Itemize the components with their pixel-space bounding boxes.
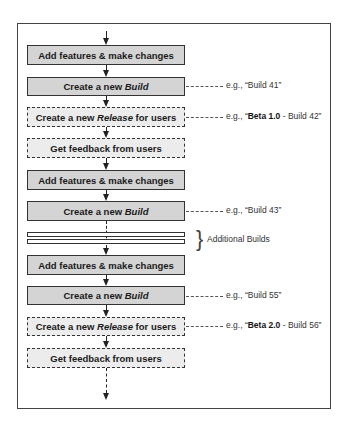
arrow-down-icon bbox=[103, 70, 109, 77]
arrow-down-icon bbox=[103, 279, 109, 286]
step-create-build: Create a new Build bbox=[27, 286, 185, 305]
annotation-leader bbox=[186, 86, 223, 87]
step-label: Create a new bbox=[63, 290, 122, 301]
annotation-leader bbox=[186, 326, 223, 327]
arrow-down-icon bbox=[103, 163, 109, 170]
annotation-beta-2: e.g., “Beta 2.0 - Build 56” bbox=[226, 320, 321, 330]
step-label: Get feedback from users bbox=[50, 353, 161, 364]
additional-build-bar bbox=[27, 239, 185, 244]
annotation-leader bbox=[186, 117, 223, 118]
arrow-down-icon bbox=[103, 248, 109, 255]
arrow-down-icon bbox=[103, 131, 109, 138]
annotation-prefix: e.g., “ bbox=[226, 111, 248, 121]
step-label-suffix: for users bbox=[133, 112, 176, 123]
annotation-build-55: e.g., “Build 55” bbox=[226, 290, 281, 300]
annotation-text: Build 43” bbox=[248, 205, 282, 215]
annotation-text: - Build 42” bbox=[280, 111, 321, 121]
step-label: Get feedback from users bbox=[50, 143, 161, 154]
annotation-text: - Build 56” bbox=[280, 320, 321, 330]
annotation-leader bbox=[186, 211, 223, 212]
annotation-prefix: e.g., “ bbox=[226, 320, 248, 330]
annotation-build-43: e.g., “Build 43” bbox=[226, 205, 281, 215]
step-get-feedback: Get feedback from users bbox=[27, 138, 185, 158]
additional-builds-label: Additional Builds bbox=[207, 234, 270, 244]
additional-build-bar bbox=[27, 232, 185, 237]
step-get-feedback: Get feedback from users bbox=[27, 348, 185, 368]
step-label: Create a new bbox=[36, 321, 95, 332]
step-create-build: Create a new Build bbox=[27, 77, 185, 96]
annotation-prefix: e.g., “ bbox=[226, 80, 248, 90]
step-create-release: Create a new Release for users bbox=[27, 107, 185, 127]
step-label-emphasis: Release bbox=[97, 112, 133, 123]
annotation-bold: Beta 1.0 bbox=[248, 111, 281, 121]
step-label: Add features & make changes bbox=[38, 260, 174, 271]
step-label: Create a new bbox=[36, 112, 95, 123]
step-create-release: Create a new Release for users bbox=[27, 317, 185, 336]
step-add-features: Add features & make changes bbox=[27, 255, 185, 275]
step-label: Add features & make changes bbox=[38, 175, 174, 186]
annotation-prefix: e.g., “ bbox=[226, 290, 248, 300]
annotation-text: Build 41” bbox=[248, 80, 282, 90]
step-label-emphasis: Build bbox=[125, 206, 149, 217]
step-add-features: Add features & make changes bbox=[27, 170, 185, 190]
step-create-build: Create a new Build bbox=[27, 201, 185, 221]
step-label: Create a new bbox=[63, 206, 122, 217]
arrow-down-icon bbox=[103, 38, 109, 45]
step-label-emphasis: Release bbox=[97, 321, 133, 332]
annotation-build-41: e.g., “Build 41” bbox=[226, 80, 281, 90]
arrow-down-icon bbox=[103, 194, 109, 201]
annotation-bold: Beta 2.0 bbox=[248, 320, 281, 330]
connector-line bbox=[106, 31, 107, 38]
arrow-down-icon bbox=[103, 393, 109, 400]
arrow-down-icon bbox=[103, 341, 109, 348]
step-add-features: Add features & make changes bbox=[27, 45, 185, 65]
step-label-emphasis: Build bbox=[125, 81, 149, 92]
connector-dashed-line bbox=[106, 368, 107, 393]
step-label: Create a new bbox=[63, 81, 122, 92]
annotation-beta-1: e.g., “Beta 1.0 - Build 42” bbox=[226, 111, 321, 121]
annotation-prefix: e.g., “ bbox=[226, 205, 248, 215]
step-label: Add features & make changes bbox=[38, 50, 174, 61]
brace-icon: } bbox=[196, 228, 203, 250]
annotation-leader bbox=[186, 296, 223, 297]
step-label-emphasis: Build bbox=[125, 290, 149, 301]
step-label-suffix: for users bbox=[133, 321, 176, 332]
arrow-down-icon bbox=[103, 100, 109, 107]
annotation-text: Build 55” bbox=[248, 290, 282, 300]
arrow-down-icon bbox=[103, 310, 109, 317]
